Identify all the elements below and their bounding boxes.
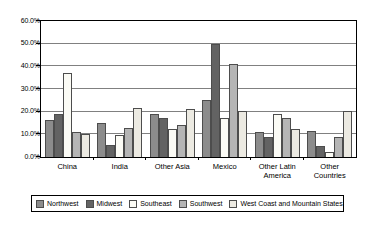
bar [186,109,195,157]
x-axis-group-tick [250,157,251,160]
x-axis-group-tick [198,157,199,160]
bar [150,114,159,157]
bar [211,44,220,157]
bar [316,146,325,157]
bar [177,125,186,157]
bar [307,131,316,157]
bar [63,73,72,157]
bar [159,118,168,157]
x-axis-category-label: India [94,162,147,192]
legend-swatch-icon [36,200,44,208]
x-axis-category-label: China [41,162,94,192]
y-tick-label: 60.0% [4,17,40,24]
bar-group [146,21,199,157]
legend-swatch-icon [129,200,137,208]
legend-item: Southwest [179,200,223,208]
bar [72,132,81,157]
bar [229,64,238,157]
bar [334,137,343,157]
x-axis-category-label: Other Asia [146,162,199,192]
legend-label: West Coast and Mountain States [240,200,342,208]
legend-swatch-icon [86,200,94,208]
x-axis-category-label: Other Countries [304,162,357,192]
legend-swatch-icon [229,200,237,208]
bar [325,152,334,157]
legend-label: Southwest [190,200,223,208]
legend-item: West Coast and Mountain States [229,200,342,208]
bar [115,135,124,157]
bar [282,118,291,157]
bar [255,132,264,157]
y-tick-label: 40.0% [4,62,40,69]
y-tick-label: 10.0% [4,130,40,137]
bar [343,111,352,157]
bar-group [41,21,94,157]
bar [202,100,211,157]
x-axis-category-label: Other Latin America [251,162,304,192]
y-tick-label: 20.0% [4,107,40,114]
bar [238,111,247,157]
bar [220,118,229,157]
x-axis-category-label: Mexico [199,162,252,192]
bar [168,129,177,157]
x-axis-category-labels: ChinaIndiaOther AsiaMexicoOther Latin Am… [41,162,356,192]
bar-group [251,21,304,157]
bar [264,137,273,157]
bar [54,114,63,157]
y-tick-label: 0.0% [4,153,40,160]
bar [291,129,300,157]
bar-group [199,21,252,157]
x-axis-group-tick [93,157,94,160]
legend-label: Northwest [47,200,79,208]
y-tick-label: 30.0% [4,85,40,92]
chart-legend: NorthwestMidwestSoutheastSouthwestWest C… [31,195,344,212]
bar [45,120,54,157]
x-axis-group-tick [303,157,304,160]
legend-item: Southeast [129,200,172,208]
legend-item: Midwest [86,200,123,208]
bar [81,134,90,157]
legend-label: Midwest [97,200,123,208]
bar [133,108,142,157]
x-axis-group-tick [145,157,146,160]
legend-item: Northwest [36,200,79,208]
bar-group [94,21,147,157]
legend-swatch-icon [179,200,187,208]
bar-chart: 60.0%50.0%40.0%30.0%20.0%10.0%0.0% China… [0,0,375,229]
bar [124,128,133,157]
y-tick-label: 50.0% [4,39,40,46]
bar [273,114,282,157]
bar-groups [41,21,356,157]
bar [106,145,115,157]
y-axis: 60.0%50.0%40.0%30.0%20.0%10.0%0.0% [0,20,40,158]
legend-label: Southeast [140,200,172,208]
bar [97,123,106,157]
bar-group [304,21,357,157]
